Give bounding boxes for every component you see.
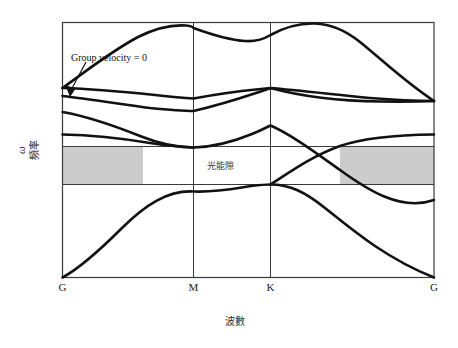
- x-axis-title: 波數: [225, 315, 245, 327]
- x-tick-label-M: M: [189, 281, 199, 293]
- x-tick-label-G-right: G: [430, 281, 438, 293]
- band-structure-chart: Group velocity = 0 光能隙 G M K G 波數 頻率 ω: [0, 0, 458, 348]
- y-axis-title-label: 頻率: [28, 140, 40, 160]
- group-velocity-label: Group velocity = 0: [71, 52, 147, 63]
- y-axis-title-symbol: ω: [15, 146, 27, 154]
- photonic-band-diagram-figure: Group velocity = 0 光能隙 G M K G 波數 頻率 ω: [0, 0, 458, 348]
- x-tick-label-K: K: [267, 281, 275, 293]
- x-tick-label-G-left: G: [59, 281, 67, 293]
- band-gap-label: 光能隙: [207, 160, 234, 171]
- band-gap-shade-left: [63, 147, 144, 185]
